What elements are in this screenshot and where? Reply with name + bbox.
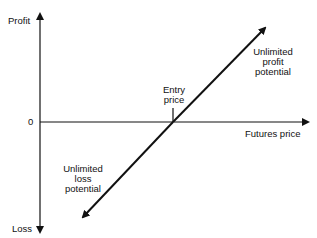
profit-potential-label: Unlimited profit potential: [248, 47, 298, 77]
entry-price-label: Entry price: [158, 85, 190, 105]
loss-potential-label: Unlimited loss potential: [58, 164, 108, 194]
payoff-diagram: [0, 0, 317, 238]
profit-label: Profit: [8, 16, 30, 26]
loss-label: Loss: [12, 224, 32, 234]
zero-label: 0: [28, 117, 33, 127]
futures-price-label: Futures price: [245, 129, 300, 139]
